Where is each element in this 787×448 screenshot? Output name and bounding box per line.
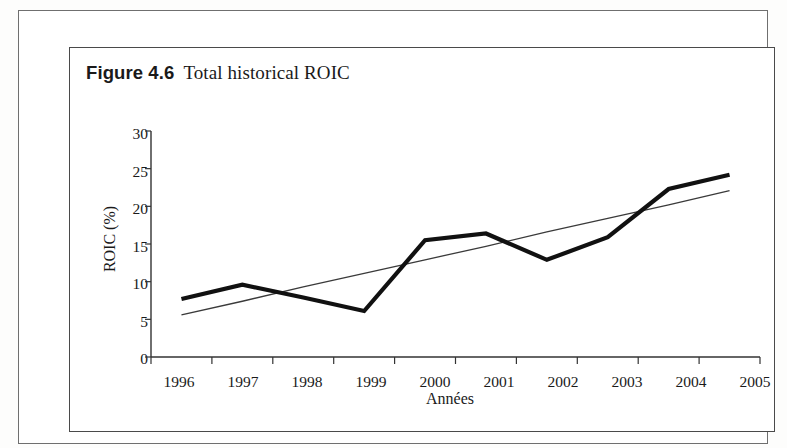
y-tick-marks bbox=[145, 131, 151, 357]
chart-svg bbox=[70, 48, 776, 433]
page-background: Figure 4.6Total historical ROIC ROIC (%)… bbox=[0, 0, 787, 448]
figure-box: Figure 4.6Total historical ROIC ROIC (%)… bbox=[69, 47, 775, 432]
trend-line-series bbox=[181, 191, 729, 315]
roic-line-series bbox=[181, 175, 729, 311]
page-border: Figure 4.6Total historical ROIC ROIC (%)… bbox=[18, 10, 768, 444]
chart-plot-area: ROIC (%) Années 30 25 20 15 10 5 0 1996 … bbox=[70, 48, 776, 433]
x-tick-marks bbox=[151, 357, 760, 364]
